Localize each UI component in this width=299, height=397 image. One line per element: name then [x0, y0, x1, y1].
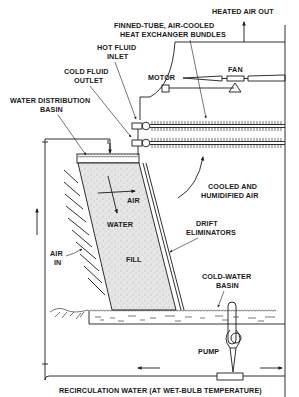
cooled-air-label-1: COOLED AND: [208, 182, 257, 191]
hot-fluid-label-2: INLET: [107, 52, 129, 61]
fill-media: [78, 163, 176, 310]
fan-support-icon: [229, 83, 241, 92]
finned-tube-label-1: FINNED-TUBE, AIR-COOLED: [114, 21, 214, 30]
cold-fluid-label-2: OUTLET: [74, 76, 104, 85]
motor-label: MOTOR: [148, 73, 176, 82]
cold-basin-leader: [218, 291, 224, 307]
ground-hatching: [55, 312, 84, 319]
fan-blade-right: [248, 75, 285, 81]
drift-eliminators-label-1: DRIFT: [196, 219, 218, 228]
air-in-label-1: AIR: [50, 249, 63, 258]
ground-surface: [50, 308, 88, 312]
fill-label: FILL: [126, 255, 142, 264]
pump-label: PUMP: [198, 347, 219, 356]
drift-eliminators-leader: [170, 238, 198, 252]
finned-tube-label-2: HEAT EXCHANGER BUNDLES: [120, 30, 226, 39]
cold-header-bend: [142, 139, 150, 147]
pump-suction-pipe: [228, 302, 236, 344]
air-in-label-2: IN: [54, 258, 61, 267]
cold-basin-label-2: BASIN: [216, 281, 239, 290]
distribution-basin: [77, 154, 139, 163]
cold-fluid-label-1: COLD FLUID: [64, 67, 109, 76]
fan-hub: [227, 76, 244, 81]
hot-header: [132, 123, 142, 129]
water-distribution-leader: [58, 115, 86, 155]
fan-blade-left: [183, 76, 222, 81]
water-distribution-label-2: BASIN: [40, 105, 63, 114]
air-in-arrow: [66, 249, 82, 256]
hot-fluid-label-1: HOT FLUID: [97, 43, 136, 52]
cooling-tower-diagram: HEATED AIR OUT FINNED-TUBE, AIR-COOLED H…: [0, 0, 299, 397]
cold-fluid-leader: [90, 86, 131, 137]
cold-basin-label-1: COLD-WATER: [202, 272, 252, 281]
heated-air-out-label: HEATED AIR OUT: [212, 7, 274, 16]
air-flow-label: AIR: [127, 196, 140, 205]
hot-fluid-leader: [115, 62, 136, 119]
hot-header-bend: [142, 122, 150, 130]
recirculation-pipe-left: [45, 376, 217, 380]
tube-bundle-top: [150, 121, 285, 131]
tube-bundle-bottom: [150, 138, 285, 148]
drift-eliminators-label-2: ELIMINATORS: [186, 228, 236, 237]
recirculation-label: RECIRCULATION WATER (AT WET-BULB TEMPERA…: [59, 386, 262, 395]
water-distribution-label-1: WATER DISTRIBUTION: [10, 96, 90, 105]
water-flow-label: WATER: [107, 220, 134, 229]
cold-header: [132, 140, 142, 146]
cooled-air-label-2: HUMIDIFIED AIR: [201, 191, 259, 200]
basin-water-dashes: [95, 316, 275, 321]
cooled-air-arrow: [178, 157, 203, 198]
pump-base: [217, 373, 243, 380]
fan-label: FAN: [228, 65, 243, 74]
motor-icon: [162, 85, 169, 92]
